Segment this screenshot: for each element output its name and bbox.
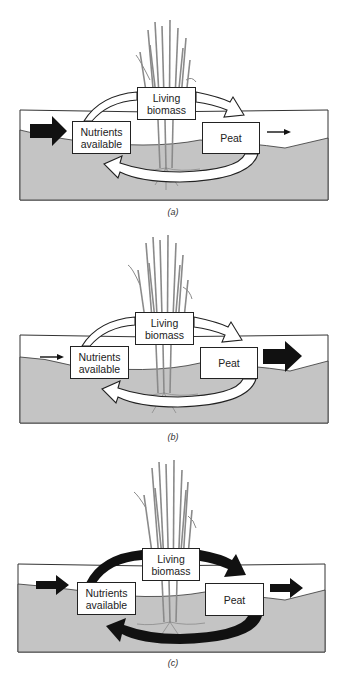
peat-box: Peat	[200, 347, 258, 379]
nutrients-available-box: Nutrients available	[72, 121, 131, 154]
peat-box: Peat	[202, 122, 260, 154]
panel-b: Nutrients available Living biomass Peat …	[0, 225, 346, 450]
panel-label: (a)	[0, 207, 346, 217]
panel-c: Nutrients available Living biomass Peat …	[0, 450, 346, 682]
peat-box: Peat	[205, 583, 264, 616]
panel-label: (c)	[0, 658, 346, 668]
living-biomass-box: Living biomass	[137, 87, 196, 120]
panel-label: (b)	[0, 432, 346, 442]
nutrients-available-box: Nutrients available	[70, 346, 129, 379]
living-biomass-box: Living biomass	[135, 312, 194, 345]
nutrients-available-box: Nutrients available	[77, 582, 136, 615]
living-biomass-box: Living biomass	[142, 548, 200, 581]
panel-a: Nutrients available Living biomass Peat …	[0, 0, 346, 225]
